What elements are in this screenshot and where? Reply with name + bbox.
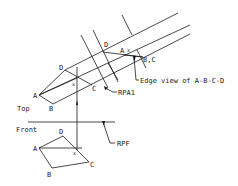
auxiliary-view-diagram: RPF RPA1 Edge view of A-B-C-D Top Front … bbox=[0, 0, 238, 186]
aux-point-x: x bbox=[127, 47, 130, 53]
rpa1-label: RPA1 bbox=[118, 89, 135, 97]
reference-lines bbox=[81, 15, 146, 88]
aux-point-d: D bbox=[104, 41, 108, 49]
top-view-plane bbox=[39, 70, 92, 104]
rpa1-leader bbox=[104, 86, 117, 92]
top-point-c: C bbox=[92, 85, 96, 93]
edge-view-label: Edge view of A-B-C-D bbox=[140, 77, 224, 85]
top-point-a: A bbox=[33, 92, 38, 100]
top-point-b: B bbox=[49, 105, 53, 113]
front-point-x: x bbox=[73, 150, 76, 156]
projector-arrow bbox=[76, 100, 78, 105]
rpf-label: RPF bbox=[117, 140, 130, 148]
front-view-plane bbox=[39, 136, 89, 168]
front-point-a: A bbox=[33, 145, 38, 153]
front-point-b: B bbox=[47, 171, 51, 179]
edge-view-leader bbox=[133, 56, 139, 80]
front-view-label: Front bbox=[16, 126, 37, 134]
rpf-leader bbox=[102, 121, 115, 143]
top-point-x: x bbox=[72, 81, 75, 87]
front-point-c: C bbox=[90, 161, 94, 169]
projection-lines bbox=[39, 13, 190, 104]
aux-point-a: A bbox=[120, 47, 125, 55]
top-view-label: Top bbox=[17, 105, 30, 113]
aux-point-bc: B,C bbox=[143, 56, 156, 64]
front-point-d: D bbox=[59, 128, 63, 136]
top-point-d: D bbox=[59, 64, 63, 72]
